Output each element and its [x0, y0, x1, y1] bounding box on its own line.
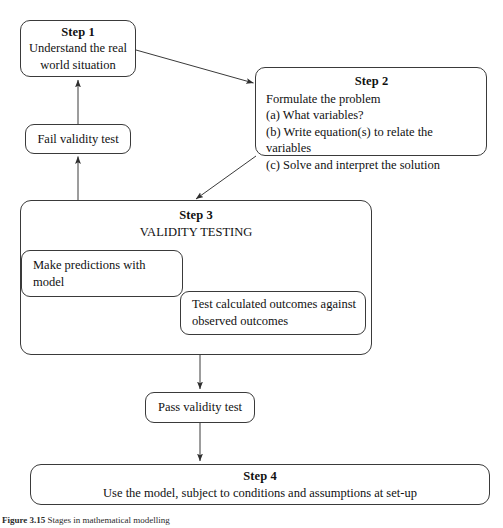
step-2-line-3: (b) Write equation(s) to relate the vari…	[266, 124, 477, 157]
node-step-2[interactable]: Step 2 Formulate the problem (a) What va…	[255, 67, 487, 156]
step-4-title: Step 4	[37, 468, 483, 485]
node-fail-validity-test[interactable]: Fail validity test	[25, 124, 131, 154]
fail-validity-test-label: Fail validity test	[26, 131, 130, 147]
step-1-line-1: Understand the real	[27, 40, 129, 57]
figure-caption-text: Stages in mathematical modelling	[48, 515, 170, 525]
modelling-cycle-diagram: Step 1 Understand the real world situati…	[0, 0, 503, 528]
step-1-title: Step 1	[27, 24, 129, 41]
step-3-subtitle: VALIDITY TESTING	[29, 224, 363, 241]
node-step-4[interactable]: Step 4 Use the model, subject to conditi…	[30, 464, 490, 505]
figure-caption-label: Figure 3.15	[2, 515, 45, 525]
step-3-title: Step 3	[29, 207, 363, 224]
step-2-line-1: Formulate the problem	[266, 91, 477, 108]
pass-validity-test-label: Pass validity test	[146, 399, 254, 415]
test-outcomes-line-1: Test calculated outcomes against	[192, 296, 356, 313]
test-outcomes-line-2: observed outcomes	[192, 313, 356, 330]
step-1-line-2: world situation	[27, 57, 129, 74]
node-test-outcomes[interactable]: Test calculated outcomes against observe…	[180, 291, 366, 335]
step-2-line-4: (c) Solve and interpret the solution	[266, 157, 477, 174]
step-2-line-2: (a) What variables?	[266, 107, 477, 124]
node-step-1[interactable]: Step 1 Understand the real world situati…	[20, 20, 136, 77]
node-make-predictions[interactable]: Make predictions with model	[21, 250, 183, 297]
step-2-title: Step 2	[266, 73, 477, 90]
connector-step2-to-step3	[196, 156, 256, 199]
make-predictions-label: Make predictions with model	[33, 257, 171, 290]
node-pass-validity-test[interactable]: Pass validity test	[145, 392, 255, 423]
figure-caption: Figure 3.15 Stages in mathematical model…	[2, 515, 442, 526]
step-4-line-1: Use the model, subject to conditions and…	[37, 485, 483, 502]
connector-step1-to-step2	[136, 50, 254, 83]
